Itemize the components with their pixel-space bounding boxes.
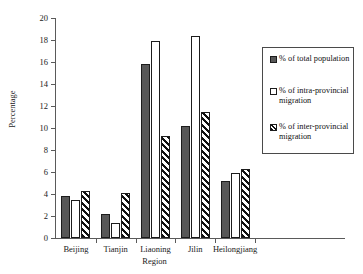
bar-total-liaoning (141, 64, 150, 238)
y-tick-label: 20 (26, 14, 48, 23)
y-tick-label: 12 (26, 102, 48, 111)
x-tick-mark (215, 238, 216, 243)
bar-inter-beijing (81, 191, 90, 238)
x-axis-title: Region (55, 256, 254, 266)
bar-intra-tianjin (111, 223, 120, 238)
bar-inter-liaoning (161, 136, 170, 238)
x-category-label: Heilongjiang (205, 245, 265, 254)
y-tick-label: 18 (26, 36, 48, 45)
bar-total-heilongjiang (221, 181, 230, 238)
y-tick-label: 16 (26, 58, 48, 67)
bars-container (56, 18, 255, 238)
bar-inter-jilin (201, 112, 210, 239)
bar-total-tianjin (101, 214, 110, 238)
bar-intra-liaoning (151, 41, 160, 238)
y-tick-label: 0 (26, 234, 48, 243)
legend-swatch-total-icon (270, 56, 277, 63)
x-tick-mark (175, 238, 176, 243)
legend-label-total: % of total population (279, 54, 349, 64)
bar-intra-heilongjiang (231, 173, 240, 238)
y-axis-title: Percentage (7, 69, 17, 149)
y-tick-label: 6 (26, 168, 48, 177)
x-tick-mark (96, 238, 97, 243)
x-tick-mark (136, 238, 137, 243)
y-tick-label: 10 (26, 124, 48, 133)
y-tick-label: 8 (26, 146, 48, 155)
bar-intra-beijing (71, 200, 80, 239)
plot-area (56, 18, 255, 238)
y-tick-label: 4 (26, 190, 48, 199)
legend-item-total: % of total population (270, 54, 354, 64)
x-tick-mark (255, 238, 256, 243)
bar-total-jilin (181, 126, 190, 238)
legend-label-inter: % of inter-provincial migration (279, 122, 354, 143)
y-tick-label: 14 (26, 80, 48, 89)
bar-total-beijing (61, 196, 70, 238)
legend: % of total population % of intra-provinc… (262, 47, 354, 154)
legend-label-intra: % of intra-provincial migration (279, 86, 354, 107)
x-axis-line (55, 238, 345, 239)
legend-item-intra: % of intra-provincial migration (270, 86, 354, 107)
bar-inter-heilongjiang (241, 169, 250, 238)
bar-intra-jilin (191, 36, 200, 238)
legend-item-inter: % of inter-provincial migration (270, 122, 354, 143)
y-tick-mark (51, 238, 56, 239)
legend-swatch-inter-icon (270, 124, 277, 131)
bar-chart: Percentage Region 02468101214161820 Beij… (0, 0, 363, 274)
bar-inter-tianjin (121, 193, 130, 238)
legend-swatch-intra-icon (270, 88, 277, 95)
y-tick-label: 2 (26, 212, 48, 221)
